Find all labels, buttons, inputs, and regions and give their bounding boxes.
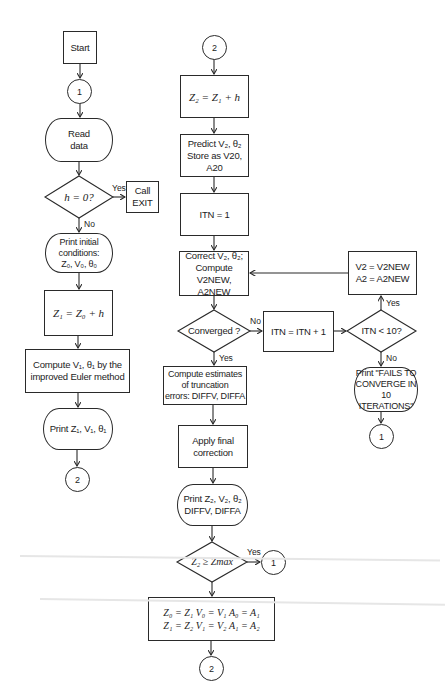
connector-label: 2 — [209, 663, 214, 675]
decision-converged-yes-label: Yes — [219, 353, 233, 363]
connector-2-bottom: 2 — [199, 656, 224, 681]
read-data-terminal: Read data — [45, 118, 113, 162]
shift-values-box: Z₀ = Z₁ V₀ = V₁ A₀ = A₁ Z₁ = Z₂ V₁ = V₂ … — [148, 597, 275, 641]
decision-itn-yes-label: Yes — [386, 298, 400, 308]
connector-2-left: 2 — [65, 467, 90, 492]
decision-itn-no-label: No — [386, 353, 397, 363]
decision-h-no-label: No — [84, 219, 95, 229]
apply-final-box: Apply final correction — [178, 425, 248, 468]
connector-1-right: 1 — [261, 550, 286, 575]
print-fail-terminal: Print "FAILS TO CONVERGE IN 10 ITERATION… — [354, 367, 418, 412]
z1-assign-box: Z₁ = Z₀ + h — [44, 290, 113, 336]
decision-h-yes-label: Yes — [112, 183, 126, 193]
decision-zmax-yes-label: Yes — [247, 547, 261, 557]
connector-2-top: 2 — [202, 35, 227, 60]
correct-box: Correct V₂, θ₂; Compute V2NEW, A2NEW — [179, 251, 249, 296]
decision-h-label: h = 0? — [64, 191, 93, 203]
call-exit-box: Call EXIT — [126, 181, 159, 213]
print-z1-terminal: Print Z₁, V₁, θ₁ — [43, 408, 113, 450]
decision-converged-label: Converged ? — [188, 325, 240, 337]
z2-assign-label: Z₂ = Z₁ + h — [189, 91, 240, 103]
compute-estimates-box: Compute estimates of truncation errors: … — [163, 366, 247, 405]
decision-h-zero: h = 0? — [45, 176, 113, 218]
decision-itn-label: ITN < 10? — [361, 325, 401, 337]
predict-box: Predict V₂, θ₂ Store as V20, A20 — [180, 134, 249, 177]
start-box: Start — [63, 31, 97, 64]
itn-init-label: ITN = 1 — [199, 209, 229, 221]
z2-assign-box: Z₂ = Z₁ + h — [180, 75, 249, 118]
connector-label: 2 — [212, 42, 217, 54]
z1-assign-label: Z₁ = Z₀ + h — [53, 307, 104, 319]
compute-v1-box: Compute V₁, θ₁ by the improved Euler met… — [25, 349, 130, 393]
itn-increment-label: ITN = ITN + 1 — [271, 326, 326, 338]
start-label: Start — [70, 42, 89, 54]
itn-init-box: ITN = 1 — [180, 193, 249, 236]
print-initial-terminal: Print initial conditions: Z₀, V₀, θ₀ — [45, 233, 113, 273]
decision-itn-lt-10: ITN < 10? — [347, 310, 416, 352]
decision-zmax: Z₂ ≥ Zmax — [177, 542, 247, 582]
connector-label: 2 — [75, 474, 80, 486]
itn-increment-box: ITN = ITN + 1 — [263, 311, 334, 352]
connector-1-top: 1 — [67, 79, 92, 104]
connector-label: 1 — [77, 86, 82, 98]
print-z2-terminal: Print Z₂, V₂, θ₂ DIFFV, DIFFA — [177, 484, 248, 526]
connector-label: 1 — [379, 431, 384, 443]
decision-converged: Converged ? — [178, 310, 250, 352]
connector-1-fail: 1 — [369, 424, 394, 449]
decision-converged-no-label: No — [250, 316, 261, 326]
v2-assign-box: V2 = V2NEW A2 = A2NEW — [348, 251, 417, 295]
print-z1-label: Print Z₁, V₁, θ₁ — [50, 423, 107, 435]
flowchart: Start 1 Read data h = 0? Yes No Call EXI… — [0, 0, 445, 699]
